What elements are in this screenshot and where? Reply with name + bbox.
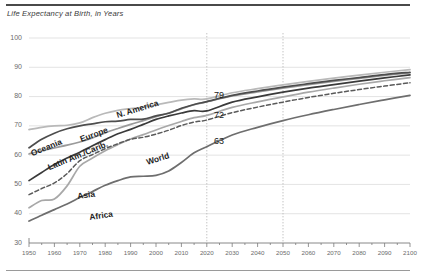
x-tick-label: 2000 [143,249,169,256]
bottom-rule [6,270,410,271]
x-tick-label: 2020 [194,249,220,256]
x-tick-label: 2090 [372,249,398,256]
y-tick-label: 60 [4,151,22,158]
value-annotation-63: 63 [214,136,224,146]
x-tick-label: 2070 [321,249,347,256]
x-tick-label: 2050 [270,249,296,256]
x-tick-label: 1990 [118,249,144,256]
x-tick-label: 1980 [92,249,118,256]
x-tick-label: 2030 [219,249,245,256]
x-tick-label: 2010 [168,249,194,256]
y-tick-label: 80 [4,92,22,99]
y-tick-label: 40 [4,209,22,216]
x-tick-label: 2060 [295,249,321,256]
x-tick-label: 1950 [16,249,42,256]
x-tick-label: 1960 [41,249,67,256]
x-tick-label: 2040 [245,249,271,256]
x-tick-label: 2080 [346,249,372,256]
y-tick-label: 70 [4,121,22,128]
value-annotation-79: 79 [214,90,224,100]
y-tick-label: 100 [4,34,22,41]
x-tick-label: 2100 [397,249,422,256]
y-tick-label: 50 [4,180,22,187]
y-tick-label: 30 [4,239,22,246]
value-annotation-72: 72 [214,110,224,120]
x-tick-label: 1970 [67,249,93,256]
y-tick-label: 90 [4,63,22,70]
